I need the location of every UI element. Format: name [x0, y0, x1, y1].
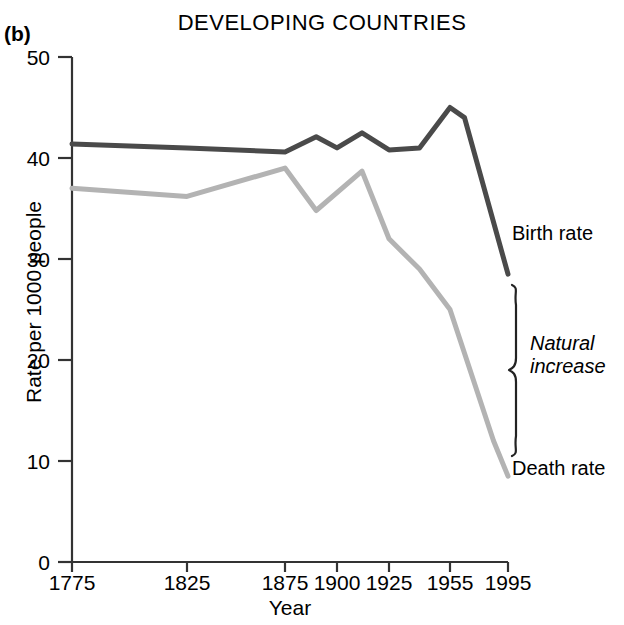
natural-increase-brace [509, 285, 516, 456]
chart-figure: (b) DEVELOPING COUNTRIES Rate per 1000 p… [0, 0, 624, 625]
series-line-death-rate [72, 168, 508, 476]
series-label-death-rate: Death rate [512, 457, 605, 480]
series-label-birth-rate: Birth rate [512, 222, 593, 245]
y-tick-marks [58, 57, 72, 562]
x-tick-marks [72, 562, 508, 572]
plot-area [0, 0, 624, 625]
series-label-natural-increase-line1: Natural [530, 332, 594, 355]
series-label-natural-increase-line2: increase [530, 355, 606, 378]
